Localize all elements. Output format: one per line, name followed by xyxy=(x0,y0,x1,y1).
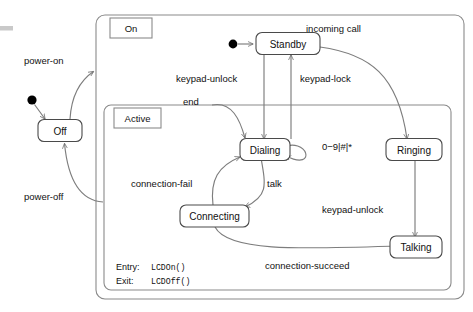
transition-power-off-label: power-off xyxy=(24,191,64,202)
transition-end xyxy=(212,104,245,138)
state-dialing[interactable]: Dialing xyxy=(240,139,290,161)
transition-talk xyxy=(245,158,264,207)
transition-initial-to-off xyxy=(35,105,46,120)
transition-connection-succeed xyxy=(215,227,399,248)
transition-keypad-unlock-ringing-label: keypad-unlock xyxy=(322,204,384,215)
state-standby-label: Standby xyxy=(270,39,307,50)
state-off-label: Off xyxy=(53,126,66,137)
state-dialing-label: Dialing xyxy=(250,145,281,156)
state-talking[interactable]: Talking xyxy=(390,236,442,258)
transition-keypad-lock-label: keypad-lock xyxy=(300,73,351,84)
initial-state-dot-off xyxy=(27,95,36,104)
transition-power-on xyxy=(70,72,94,120)
state-ringing-label: Ringing xyxy=(397,145,431,156)
exit-action-value: LCDOff() xyxy=(151,277,190,286)
statechart-canvas: On Active power-on power-off incoming ca… xyxy=(0,0,473,312)
entry-action-value: LCDOn() xyxy=(151,263,185,272)
transition-power-on-label: power-on xyxy=(24,55,64,66)
state-connecting-label: Connecting xyxy=(189,211,240,222)
state-ringing[interactable]: Ringing xyxy=(386,139,442,161)
edge-artifact xyxy=(0,26,13,31)
transition-keypad-unlock-label: keypad-unlock xyxy=(176,73,238,84)
exit-action-label: Exit: xyxy=(116,276,134,286)
region-active-label: Active xyxy=(125,113,151,124)
state-standby[interactable]: Standby xyxy=(256,33,320,55)
state-off[interactable]: Off xyxy=(38,120,82,142)
state-diagram: On Active power-on power-off incoming ca… xyxy=(0,0,473,312)
region-active-actions: Entry: LCDOn() Exit: LCDOff() xyxy=(116,262,190,286)
transition-connection-fail xyxy=(212,157,240,205)
transition-connection-fail-label: connection-fail xyxy=(131,178,192,189)
initial-state-dot-standby xyxy=(229,40,238,49)
transition-talk-label: talk xyxy=(267,178,282,189)
entry-action-label: Entry: xyxy=(116,262,140,272)
transition-incoming-call xyxy=(320,47,407,139)
state-connecting[interactable]: Connecting xyxy=(180,205,249,227)
transition-digits-label: 0−9|#|* xyxy=(322,141,352,152)
transition-end-label: end xyxy=(183,96,199,107)
transition-connection-succeed-label: connection-succeed xyxy=(265,260,350,271)
transition-power-off xyxy=(65,144,104,203)
region-on-label: On xyxy=(125,23,138,34)
state-talking-label: Talking xyxy=(400,242,431,253)
